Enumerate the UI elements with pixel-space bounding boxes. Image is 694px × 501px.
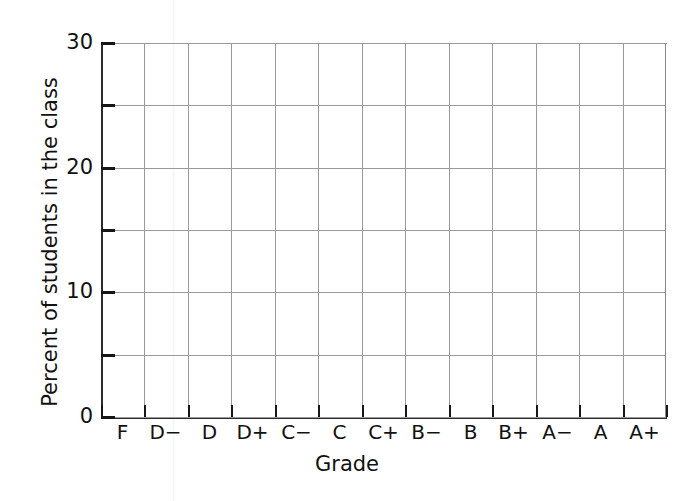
- gridline-x-4: [275, 43, 276, 417]
- x-tick-4: [275, 405, 277, 417]
- x-category-label-C−: C−: [275, 422, 318, 442]
- gridline-x-5: [318, 43, 319, 417]
- x-tick-11: [579, 405, 581, 417]
- x-category-label-D−: D−: [144, 422, 187, 442]
- gridline-x-12: [623, 43, 624, 417]
- gridline-y-25: [101, 105, 666, 106]
- gridline-x-11: [579, 43, 580, 417]
- x-category-label-D+: D+: [231, 422, 274, 442]
- gridline-y-30: [101, 43, 666, 44]
- gridline-x-1: [144, 43, 145, 417]
- gridline-y-15: [101, 230, 666, 231]
- x-category-label-A: A: [579, 422, 622, 442]
- y-tick-25: [101, 104, 115, 107]
- x-category-label-A−: A−: [536, 422, 579, 442]
- x-category-label-A+: A+: [623, 422, 666, 442]
- x-tick-6: [362, 405, 364, 417]
- x-tick-3: [231, 405, 233, 417]
- x-tick-9: [492, 405, 494, 417]
- y-tick-30: [101, 42, 115, 45]
- x-axis-title: Grade: [0, 452, 694, 476]
- y-tick-5: [101, 354, 115, 357]
- gridline-x-6: [362, 43, 363, 417]
- y-tick-10: [101, 291, 115, 294]
- gridline-x-8: [449, 43, 450, 417]
- x-category-label-F: F: [101, 422, 144, 442]
- y-tick-15: [101, 229, 115, 232]
- x-tick-0: [101, 405, 103, 417]
- gridline-x-9: [492, 43, 493, 417]
- x-tick-13: [666, 405, 668, 417]
- gridline-x-2: [188, 43, 189, 417]
- x-category-label-B−: B−: [405, 422, 448, 442]
- y-tick-20: [101, 167, 115, 170]
- y-tick-label-30: 30: [49, 32, 93, 53]
- x-category-label-C+: C+: [362, 422, 405, 442]
- x-category-label-B+: B+: [492, 422, 535, 442]
- x-tick-12: [623, 405, 625, 417]
- gridline-y-0: [101, 417, 666, 418]
- gridline-y-10: [101, 292, 666, 293]
- gridline-x-10: [536, 43, 537, 417]
- gridline-y-20: [101, 168, 666, 169]
- gridline-x-3: [231, 43, 232, 417]
- x-tick-1: [144, 405, 146, 417]
- gridline-y-5: [101, 355, 666, 356]
- chart-figure: 0102030 FD−DD+C−CC+B−BB+A−AA+ Percent of…: [0, 0, 694, 501]
- y-tick-0: [101, 416, 115, 419]
- x-tick-5: [318, 405, 320, 417]
- y-axis-title: Percent of students in the class: [38, 52, 62, 432]
- x-category-label-D: D: [188, 422, 231, 442]
- x-category-label-C: C: [318, 422, 361, 442]
- x-tick-7: [405, 405, 407, 417]
- x-tick-2: [188, 405, 190, 417]
- gridline-x-7: [405, 43, 406, 417]
- x-tick-10: [536, 405, 538, 417]
- x-category-label-B: B: [449, 422, 492, 442]
- x-tick-8: [449, 405, 451, 417]
